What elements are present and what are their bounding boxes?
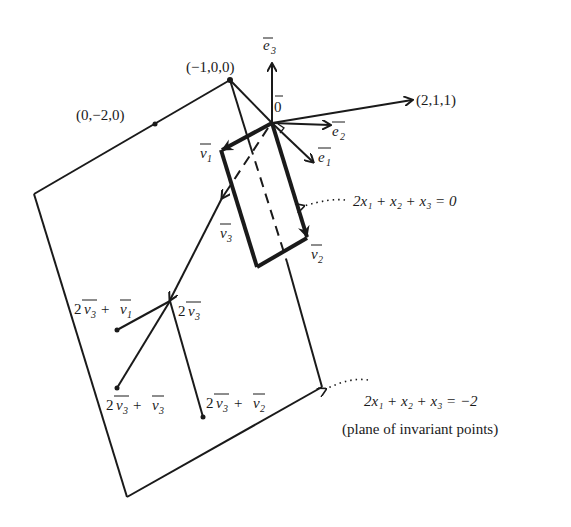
svg-text:v: v [200,145,207,161]
label-v3: v 3 [220,224,232,244]
svg-text:v: v [152,397,159,413]
label-0-neg2-0: (0,−2,0) [76,107,124,124]
svg-text:v: v [188,303,195,319]
svg-text:3: 3 [270,45,276,56]
svg-text:1: 1 [127,309,132,320]
svg-text:2: 2 [340,131,345,142]
label-v1: v 1 [200,144,212,164]
direction-arrow [272,100,412,123]
svg-text:e: e [332,123,339,139]
label-invariant-plane-equation: 2x₁ + x₂ + x₃ = −2 [364,393,478,409]
svg-text:v: v [220,225,227,241]
label-e3: e 3 [263,37,276,56]
label-2v3-plus-v1: 2 v 3 + v 1 [74,300,132,320]
point-neg1-0-0 [227,77,233,83]
label-origin-plane-equation: 2x₁ + x₂ + x₃ = 0 [353,193,457,209]
label-2v3: 2 v 3 [178,302,201,322]
plane-edge-right-hidden [250,145,287,262]
svg-text:2: 2 [260,403,265,414]
rect-edge-bottom [257,238,307,267]
svg-text:v: v [120,301,127,317]
plane-edge-left [34,194,127,497]
svg-text:3: 3 [90,309,96,320]
label-origin: 0 [274,96,283,115]
svg-text:v: v [216,395,223,411]
point-0-neg2-0 [153,122,158,127]
leader-origin-plane [304,200,345,206]
point-2v3-plus-v3 [115,386,120,391]
svg-text:2: 2 [106,397,114,413]
svg-text:1: 1 [207,153,212,164]
svg-text:v: v [311,246,318,262]
svg-text:+: + [234,395,242,411]
svg-text:2: 2 [74,301,82,317]
svg-text:3: 3 [194,311,200,322]
label-2v3-plus-v2: 2 v 3 + v 2 [206,394,265,414]
svg-text:v: v [116,397,123,413]
svg-text:2: 2 [318,254,323,265]
svg-text:0: 0 [274,99,282,115]
label-2v3-plus-v3: 2 v 3 + v 3 [106,396,164,416]
svg-text:v: v [253,395,260,411]
svg-text:3: 3 [158,405,164,416]
v3-extension [170,198,222,300]
leader-invariant-plane [326,379,368,389]
svg-text:3: 3 [226,233,232,244]
svg-text:2: 2 [178,303,186,319]
label-e2: e 2 [332,122,345,142]
plane-edge-top [34,80,230,194]
label-direction: (2,1,1) [416,92,456,109]
label-invariant-note: (plane of invariant points) [342,421,498,438]
label-neg1-0-0: (−1,0,0) [186,59,234,76]
svg-text:1: 1 [326,157,331,168]
svg-text:e: e [263,37,270,53]
svg-text:3: 3 [222,403,228,414]
label-e1: e 1 [318,148,331,168]
svg-text:3: 3 [122,405,128,416]
label-v2: v 2 [311,245,323,265]
svg-text:2: 2 [206,395,214,411]
point-2v3-plus-v1 [115,328,120,333]
svg-text:+: + [133,397,141,413]
diagram-canvas: (−1,0,0) (0,−2,0) (2,1,1) 0 e 3 e 2 e 1 … [0,0,571,527]
svg-text:+: + [101,301,109,317]
rect-edge-left [221,150,257,267]
plane-edge-right-lower [287,262,322,387]
v3-arrow [222,183,232,198]
point-2v3-plus-v2 [201,415,206,420]
v1-arrow [222,123,272,150]
svg-text:e: e [318,149,325,165]
e2-arrow [272,123,330,125]
svg-text:v: v [84,301,91,317]
